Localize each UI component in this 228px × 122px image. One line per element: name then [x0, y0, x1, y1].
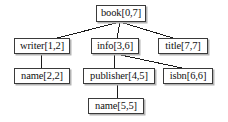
tree-node-publisher: publisher[4,5]	[83, 68, 155, 84]
tree-node-label-info: info[3,6]	[97, 40, 133, 51]
tree-node-label-publisher: publisher[4,5]	[90, 70, 148, 81]
tree-node-label-name2: name[2,2]	[21, 70, 63, 81]
tree-edge-book-to-writer	[57, 22, 120, 38]
tree-node-label-name5: name[5,5]	[95, 100, 137, 111]
tree-edge-info-to-isbn	[116, 54, 182, 68]
tree-node-name2: name[2,2]	[14, 68, 70, 84]
tree-node-label-book: book[0,7]	[101, 8, 141, 19]
tree-diagram: book[0,7]writer[1,2]info[3,6]title[7,7]n…	[0, 0, 228, 122]
tree-node-label-writer: writer[1,2]	[20, 40, 64, 51]
tree-edge-book-to-title	[120, 22, 173, 38]
tree-node-label-isbn: isbn[6,6]	[170, 70, 207, 81]
tree-node-writer: writer[1,2]	[14, 38, 70, 54]
tree-node-book: book[0,7]	[96, 5, 146, 22]
tree-node-label-title: title[7,7]	[165, 40, 200, 51]
tree-node-name5: name[5,5]	[88, 98, 144, 114]
tree-node-isbn: isbn[6,6]	[163, 68, 213, 84]
tree-node-info: info[3,6]	[91, 38, 139, 54]
tree-edge-book-to-info	[117, 22, 120, 38]
tree-node-title: title[7,7]	[158, 38, 208, 54]
tree-edge-info-to-publisher	[114, 54, 115, 68]
